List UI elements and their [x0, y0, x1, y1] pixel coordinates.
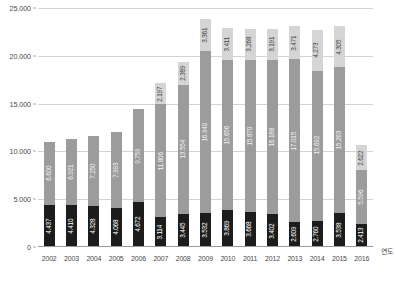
bar-segment[interactable]: 15.656 — [222, 60, 233, 210]
bar-segment[interactable]: 11.806 — [155, 104, 166, 217]
bar-segment[interactable]: 15.870 — [245, 60, 256, 212]
y-axis-tick-mark — [33, 247, 36, 248]
bar-stack: 3.26815.8703.668 — [245, 29, 256, 247]
bar-column[interactable]: 9.7594.672 — [127, 8, 149, 247]
bar-column[interactable]: 2.38913.5543.445 — [172, 8, 194, 247]
x-axis-tick-label: 2012 — [261, 255, 283, 269]
bar-segment[interactable]: 7.250 — [88, 136, 99, 205]
bar-column[interactable]: 6.9214.410 — [60, 8, 82, 247]
bar-segment[interactable]: 3.114 — [155, 217, 166, 247]
bar-stack: 7.9934.068 — [111, 132, 122, 247]
bars-layer: 6.6004.4376.9214.4107.2504.3287.9934.068… — [38, 8, 373, 247]
bar-column[interactable]: 4.27315.6922.760 — [306, 8, 328, 247]
bar-column[interactable]: 2.6225.5962.413 — [351, 8, 373, 247]
y-axis-tick-label: 10.000 — [10, 147, 31, 156]
bar-segment-value-label: 2.197 — [158, 86, 164, 101]
bar-segment-value-label: 2.389 — [180, 65, 186, 80]
bar-stack: 4.30515.2633.538 — [334, 26, 345, 247]
bar-segment-value-label: 6.921 — [68, 164, 74, 179]
x-axis-tick-label: 2016 — [351, 255, 373, 269]
bar-segment[interactable]: 3.471 — [289, 26, 300, 59]
bar-stack: 2.38913.5543.445 — [178, 62, 189, 247]
bar-segment[interactable]: 13.554 — [178, 85, 189, 215]
bar-column[interactable]: 3.26815.8703.668 — [239, 8, 261, 247]
plot-area: 6.6004.4376.9214.4107.2504.3287.9934.068… — [38, 8, 373, 247]
bar-column[interactable]: 6.6004.437 — [38, 8, 60, 247]
bar-stack: 4.27315.6922.760 — [312, 30, 323, 247]
bar-stack: 2.6225.5962.413 — [356, 145, 367, 247]
bar-segment-value-label: 3.869 — [225, 221, 231, 236]
bar-segment[interactable]: 3.869 — [222, 210, 233, 247]
x-axis-tick-label: 2002 — [38, 255, 60, 269]
bar-segment[interactable]: 2.609 — [289, 222, 300, 247]
bar-segment[interactable]: 2.413 — [356, 224, 367, 247]
y-axis: 05.00010.00015.00020.00025.000 — [0, 8, 36, 247]
bar-segment[interactable]: 4.672 — [133, 202, 144, 247]
bar-segment[interactable]: 2.197 — [155, 83, 166, 104]
bar-column[interactable]: 3.19116.1883.402 — [261, 8, 283, 247]
bar-segment[interactable]: 17.015 — [289, 59, 300, 222]
bar-segment[interactable]: 4.273 — [312, 30, 323, 71]
x-axis-tick-label: 2011 — [239, 255, 261, 269]
bar-stack: 3.47117.0152.609 — [289, 26, 300, 247]
bar-column[interactable]: 7.2504.328 — [83, 8, 105, 247]
bar-segment-value-label: 15.263 — [336, 131, 342, 150]
bar-segment[interactable]: 9.759 — [133, 109, 144, 202]
bar-column[interactable]: 3.36116.9403.532 — [194, 8, 216, 247]
bar-stack: 6.9214.410 — [66, 139, 77, 247]
bar-column[interactable]: 4.30515.2633.538 — [328, 8, 350, 247]
bar-segment[interactable]: 3.268 — [245, 29, 256, 60]
x-axis-tick-label: 2015 — [328, 255, 350, 269]
bar-column[interactable]: 3.41115.6563.869 — [217, 8, 239, 247]
bar-segment-value-label: 11.806 — [158, 152, 164, 170]
bar-segment-value-label: 4.410 — [68, 218, 74, 233]
y-axis-tick-label: 20.000 — [10, 51, 31, 60]
x-axis-tick-label: 2003 — [60, 255, 82, 269]
x-axis-tick-label: 2010 — [217, 255, 239, 269]
bar-segment[interactable]: 4.410 — [66, 205, 77, 247]
x-axis-tick-label: 2004 — [83, 255, 105, 269]
bar-segment[interactable]: 4.068 — [111, 208, 122, 247]
bar-segment[interactable]: 3.538 — [334, 213, 345, 247]
bar-segment[interactable]: 3.402 — [267, 214, 278, 247]
bar-segment[interactable]: 2.389 — [178, 62, 189, 85]
bar-segment-value-label: 3.411 — [225, 37, 231, 52]
x-axis-tick-label: 2009 — [194, 255, 216, 269]
bar-segment-value-label: 3.268 — [247, 37, 253, 52]
bar-segment[interactable]: 3.668 — [245, 212, 256, 247]
bar-segment[interactable]: 16.188 — [267, 60, 278, 215]
bar-segment[interactable]: 16.940 — [200, 51, 211, 213]
bar-segment-value-label: 6.600 — [46, 165, 52, 180]
bar-segment-value-label: 2.413 — [359, 228, 365, 243]
x-axis-tick-label: 2014 — [306, 255, 328, 269]
bar-segment[interactable]: 3.411 — [222, 28, 233, 61]
bar-segment[interactable]: 7.993 — [111, 132, 122, 208]
y-axis-tick-label: 0 — [27, 243, 31, 252]
bar-segment[interactable]: 6.600 — [44, 142, 55, 205]
bar-segment[interactable]: 3.361 — [200, 19, 211, 51]
bar-segment-value-label: 15.870 — [247, 127, 253, 146]
bar-column[interactable]: 2.19711.8063.114 — [150, 8, 172, 247]
bar-segment-value-label: 3.471 — [292, 35, 298, 50]
bar-segment[interactable]: 6.921 — [66, 139, 77, 205]
bar-column[interactable]: 7.9934.068 — [105, 8, 127, 247]
bar-segment[interactable]: 3.191 — [267, 29, 278, 60]
bar-segment[interactable]: 2.760 — [312, 221, 323, 247]
bar-segment[interactable]: 2.622 — [356, 145, 367, 170]
bar-segment[interactable]: 3.532 — [200, 213, 211, 247]
x-axis-tick-label: 2013 — [284, 255, 306, 269]
bar-segment[interactable]: 3.445 — [178, 214, 189, 247]
bar-column[interactable]: 3.47117.0152.609 — [284, 8, 306, 247]
bar-segment[interactable]: 5.596 — [356, 170, 367, 223]
bar-segment-value-label: 4.672 — [135, 217, 141, 232]
bar-segment[interactable]: 15.692 — [312, 71, 323, 221]
bar-segment[interactable]: 4.305 — [334, 26, 345, 67]
bar-segment[interactable]: 4.328 — [88, 206, 99, 247]
x-axis-tick-labels: 2002200320042005200620072008200920102011… — [38, 255, 373, 269]
x-axis-tick-label: 2006 — [127, 255, 149, 269]
bar-segment[interactable]: 4.437 — [44, 205, 55, 247]
bar-segment[interactable]: 15.263 — [334, 67, 345, 213]
bar-segment-value-label: 2.760 — [314, 226, 320, 241]
x-axis-tick-label: 2008 — [172, 255, 194, 269]
bar-segment-value-label: 7.250 — [91, 163, 97, 178]
